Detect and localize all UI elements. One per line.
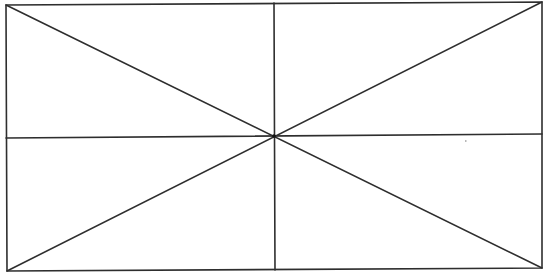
speck-mark bbox=[465, 140, 467, 142]
center-intersection bbox=[272, 134, 276, 138]
diagram-canvas bbox=[0, 0, 548, 273]
